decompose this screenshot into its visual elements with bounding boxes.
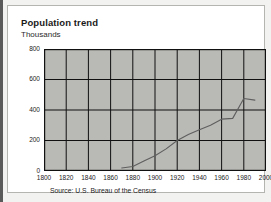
- left-edge-rule: [0, 0, 3, 202]
- x-axis-tick-label: 1940: [192, 174, 206, 181]
- y-axis-labels: 0200400600800: [44, 49, 266, 171]
- x-axis-tick-label: 1860: [103, 174, 117, 181]
- page-background: Population trend Thousands 0200400600800…: [0, 0, 271, 202]
- y-axis-tick-label: 200: [16, 136, 40, 143]
- y-axis-tick-label: 400: [16, 106, 40, 113]
- source-note: Source: U.S. Bureau of the Census: [50, 187, 156, 194]
- chart-subtitle: Thousands: [21, 30, 61, 39]
- x-axis-tick-label: 1820: [59, 174, 73, 181]
- x-axis-tick-label: 1900: [148, 174, 162, 181]
- chart-card: Population trend Thousands 0200400600800…: [7, 5, 265, 193]
- x-axis-tick-label: 1840: [81, 174, 95, 181]
- x-axis-tick-label: 1880: [126, 174, 140, 181]
- y-axis-tick-label: 600: [16, 75, 40, 82]
- y-axis-tick-label: 0: [16, 167, 40, 174]
- x-axis-labels: 1800182018401860188019001920194019601980…: [44, 174, 266, 186]
- chart-title: Population trend: [21, 17, 98, 28]
- y-axis-tick-label: 800: [16, 45, 40, 52]
- x-axis-tick-label: 1800: [37, 174, 51, 181]
- x-axis-tick-label: 1980: [237, 174, 251, 181]
- x-axis-tick-label: 1920: [170, 174, 184, 181]
- x-axis-tick-label: 2000: [259, 174, 271, 181]
- x-axis-tick-label: 1960: [214, 174, 228, 181]
